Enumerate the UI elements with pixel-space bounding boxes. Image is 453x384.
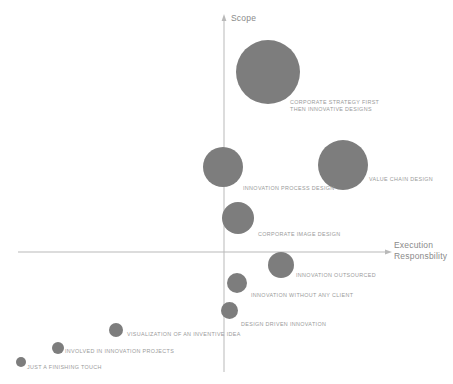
bubble-design-driven-innovation[interactable] xyxy=(221,302,238,319)
label-value-chain: VALUE CHAIN DESIGN xyxy=(369,176,433,183)
label-corporate-image: CORPORATE IMAGE DESIGN xyxy=(258,231,340,238)
bubble-corporate-strategy[interactable] xyxy=(236,40,300,104)
label-design-driven-innovation: DESIGN DRIVEN INNOVATION xyxy=(241,321,326,328)
axes-group xyxy=(0,0,453,384)
label-just-finishing-touch: JUST A FINISHING TOUCH xyxy=(27,364,102,371)
y-axis-title: Scope xyxy=(231,13,256,24)
label-corporate-strategy: CORPORATE STRATEGY FIRST THEN INNOVATIVE… xyxy=(290,99,379,113)
label-involved-innovation-projects: INVOLVED IN INNOVATION PROJECTS xyxy=(65,348,174,355)
x-axis-title: Execution Responsbility xyxy=(394,240,447,261)
bubble-visualization-inventive-idea[interactable] xyxy=(109,323,123,337)
bubble-corporate-image[interactable] xyxy=(222,202,254,234)
bubble-value-chain[interactable] xyxy=(318,140,368,190)
label-innovation-outsourced: INNOVATION OUTSOURCED xyxy=(296,272,376,279)
x-axis-title-line1: Execution xyxy=(394,240,447,251)
bubble-innovation-outsourced[interactable] xyxy=(268,252,294,278)
label-visualization-inventive-idea: VISUALIZATION OF AN INVENTIVE IDEA xyxy=(127,331,241,338)
x-axis-arrow xyxy=(385,250,392,255)
y-axis-arrow xyxy=(222,14,227,21)
label-corporate-strategy-line1: CORPORATE STRATEGY FIRST xyxy=(290,99,379,106)
bubble-just-finishing-touch[interactable] xyxy=(16,357,26,367)
bubble-innovation-process[interactable] xyxy=(203,147,243,187)
label-innovation-process: INNOVATION PROCESS DESIGN xyxy=(243,185,335,192)
bubble-involved-innovation-projects[interactable] xyxy=(52,342,64,354)
label-innovation-without-client: INNOVATION WITHOUT ANY CLIENT xyxy=(251,292,353,299)
label-corporate-strategy-line2: THEN INNOVATIVE DESIGNS xyxy=(290,106,379,113)
bubble-innovation-without-client[interactable] xyxy=(227,273,247,293)
x-axis-title-line2: Responsbility xyxy=(394,251,447,262)
bubble-chart: Scope Execution Responsbility CORPORATE … xyxy=(0,0,453,384)
